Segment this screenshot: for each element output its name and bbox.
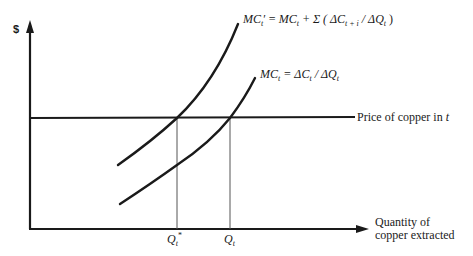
mc-prime-sub2: t	[297, 19, 299, 28]
mc-prime-curve	[118, 24, 238, 165]
q-t-tick-label: Qt	[224, 233, 235, 247]
y-axis-arrow-icon	[26, 20, 34, 33]
mc-curve	[120, 78, 255, 204]
mc-prime-sum: + Σ ( ΔC	[299, 12, 345, 26]
mc-sub3: t	[337, 74, 339, 83]
x-axis-label: Quantity of copper extracted	[375, 216, 455, 242]
mc-prime-label: MCt′ = MCt + Σ ( ΔCt + i / ΔQt )	[243, 13, 393, 27]
mc-prime-sub4: t	[384, 19, 386, 28]
price-line	[30, 117, 355, 118]
q-star-sup: *	[178, 231, 182, 240]
price-label-var: t	[446, 110, 449, 124]
mc-sub2: t	[309, 74, 311, 83]
mc-mc: MC	[260, 67, 278, 81]
q-t-main: Q	[224, 232, 233, 246]
q-star-sub: t	[176, 239, 178, 248]
mc-prime-mc1: MC	[243, 12, 261, 26]
mc-eq: = ΔC	[280, 67, 309, 81]
q-star-main: Q	[167, 232, 176, 246]
x-axis-label-line2: copper extracted	[375, 229, 455, 242]
mc-sub1: t	[278, 74, 280, 83]
q-star-tick-label: Qt*	[167, 233, 182, 247]
mc-prime-eq: =	[266, 12, 279, 26]
y-axis-label: $	[13, 23, 19, 36]
price-label-main: Price of copper in	[357, 110, 446, 124]
mc-prime-mc2: MC	[279, 12, 297, 26]
mc-prime-close: )	[386, 12, 393, 26]
mc-prime-sub3: t + i	[345, 19, 359, 28]
q-t-sub: t	[233, 239, 235, 248]
mc-div: / ΔQ	[312, 67, 337, 81]
mc-label: MCt = ΔCt / ΔQt	[260, 68, 339, 82]
mc-prime-sub1: t	[261, 19, 263, 28]
price-line-label: Price of copper in t	[357, 111, 449, 124]
x-axis-arrow-icon	[356, 225, 369, 233]
mc-prime-div: / ΔQ	[359, 12, 384, 26]
